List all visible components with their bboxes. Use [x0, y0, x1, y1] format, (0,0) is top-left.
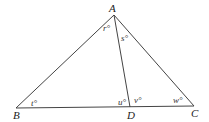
triangle-diagram: A B D C r° s° t° u° v° w° — [0, 0, 209, 122]
angle-label-s: s° — [121, 33, 129, 43]
segment-ad — [114, 15, 130, 107]
segment-ac — [114, 15, 194, 106]
angle-label-u: u° — [118, 97, 127, 107]
point-label-b: B — [13, 109, 20, 121]
segment-bc — [16, 106, 194, 108]
segment-ab — [16, 15, 114, 108]
angle-label-v: v° — [134, 95, 142, 105]
point-label-d: D — [126, 109, 135, 121]
angle-label-w: w° — [173, 95, 183, 105]
point-label-c: C — [191, 107, 199, 119]
angle-label-r: r° — [103, 23, 111, 33]
point-label-a: A — [108, 2, 116, 14]
angle-label-t: t° — [31, 98, 38, 108]
